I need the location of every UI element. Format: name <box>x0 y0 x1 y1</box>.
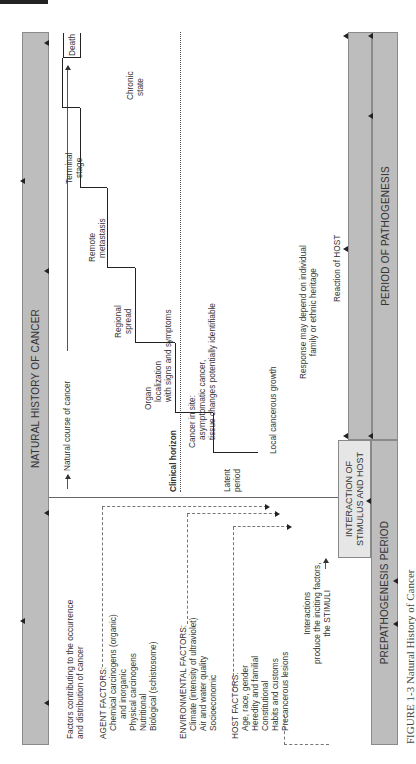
chronic-state: Chronic state <box>125 71 145 100</box>
arrowhead-icon <box>343 433 348 439</box>
stage-terminal: Terminal stage <box>64 153 84 184</box>
agent-factors-title: AGENT FACTORS: <box>98 614 108 739</box>
death-bottom <box>80 33 81 58</box>
stair-v <box>80 187 107 188</box>
environmental-factors-title: ENVIRONMENTAL FACTORS: <box>178 618 188 739</box>
arrowhead-icon <box>275 511 280 517</box>
reaction-of-host: Reaction of HOST <box>332 235 342 302</box>
stage-organ-localization: Organ localization with signs and sympto… <box>143 309 173 410</box>
arrowhead-icon <box>20 178 25 184</box>
diagram-canvas: NATURAL HISTORY OF CANCER Factors contri… <box>0 0 416 764</box>
env-dash-line <box>187 514 188 624</box>
host-dash-drop <box>233 526 289 527</box>
env-dash-drop <box>187 513 277 514</box>
arrowhead-icon <box>20 618 25 624</box>
stair-h <box>135 268 136 343</box>
stair-h <box>107 188 108 268</box>
agent-dash-drop <box>102 506 267 507</box>
stair-v <box>62 107 80 108</box>
arrowhead-icon <box>287 524 292 530</box>
precancer-box-left <box>284 744 329 745</box>
arrowhead-icon <box>265 504 270 510</box>
agent-factors: AGENT FACTORS: Chemical carcinogens (org… <box>98 614 158 739</box>
arrowhead-icon <box>343 246 348 252</box>
arrowhead-icon <box>366 498 371 504</box>
stage-regional-spread: Regional spread <box>113 305 133 338</box>
arrowhead-icon <box>44 510 49 516</box>
period-divider <box>49 497 349 498</box>
host-dash-line <box>233 527 234 692</box>
clinical-horizon-label: Clinical horizon <box>168 430 178 492</box>
course-arrow <box>67 66 68 351</box>
arrowhead-icon <box>343 33 348 39</box>
stair-v <box>213 452 258 453</box>
course-label: Natural course of cancer <box>62 381 72 471</box>
interactions-text: Interactions produce the inciting factor… <box>302 563 332 664</box>
arrowhead-icon <box>368 113 373 119</box>
agent-dash-line <box>102 507 103 667</box>
arrowhead-icon <box>393 578 398 584</box>
stage-cancer-in-site: Cancer in site: asymptomatic cancer, tis… <box>187 303 217 448</box>
stair-h <box>175 343 176 413</box>
host-factors-title: HOST FACTORS: <box>230 652 240 739</box>
death-top <box>63 33 64 58</box>
environmental-factors: ENVIRONMENTAL FACTORS: Climate (intensit… <box>178 618 218 739</box>
local-growth: Local cancerous growth <box>268 366 278 454</box>
precancer-box-top <box>284 715 285 745</box>
arrowhead-icon <box>44 268 49 274</box>
stair-v <box>107 267 135 268</box>
course-arrow-start <box>67 475 68 489</box>
host-factors: HOST FACTORS: Age, race, gender Heredity… <box>230 652 290 739</box>
stair-h <box>62 58 63 108</box>
stage-latent: Latent period <box>222 469 242 492</box>
stage-death: Death <box>67 34 77 56</box>
prepathogenesis-label: PREPATHOGENESIS PERIOD <box>379 521 390 665</box>
natural-history-title: NATURAL HISTORY OF CANCER <box>30 309 41 468</box>
stimuli-arrow <box>325 559 326 569</box>
response-text: Response may depend on individual family… <box>298 245 318 379</box>
arrowhead-icon <box>44 40 49 46</box>
arrowhead-icon <box>393 621 398 627</box>
clinical-horizon-line <box>180 32 181 492</box>
natural-history-bar: NATURAL HISTORY OF CANCER <box>22 32 49 745</box>
factors-heading: Factors contributing to the occurrence a… <box>65 600 85 739</box>
arrowhead-icon <box>368 433 373 439</box>
arrowhead-icon <box>44 700 49 706</box>
arrowhead-icon <box>368 33 373 39</box>
pathogenesis-bar-top <box>348 32 372 440</box>
figure-caption: FIGURE 1-3 Natural History of Cancer <box>404 570 416 744</box>
death-side <box>63 57 80 58</box>
pathogenesis-bar: PERIOD OF PATHOGENESIS <box>372 32 398 440</box>
stage-remote-metastasis: Remote metastasis <box>87 218 107 262</box>
prepathogenesis-bar: PREPATHOGENESIS PERIOD <box>371 440 398 745</box>
pathogenesis-label: PERIOD OF PATHOGENESIS <box>380 166 391 306</box>
